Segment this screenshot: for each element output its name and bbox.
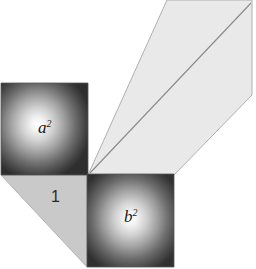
label-b-exponent: 2 — [133, 207, 138, 218]
label-b-base: b — [124, 207, 133, 226]
label-a-exponent: 2 — [47, 118, 52, 129]
unit-triangle — [1, 175, 87, 267]
label-unit-one: 1 — [51, 188, 60, 205]
figure-canvas: a2 b2 1 — [0, 0, 256, 269]
pythagorean-figure: a2 b2 1 — [0, 0, 256, 269]
label-a-base: a — [38, 118, 47, 137]
